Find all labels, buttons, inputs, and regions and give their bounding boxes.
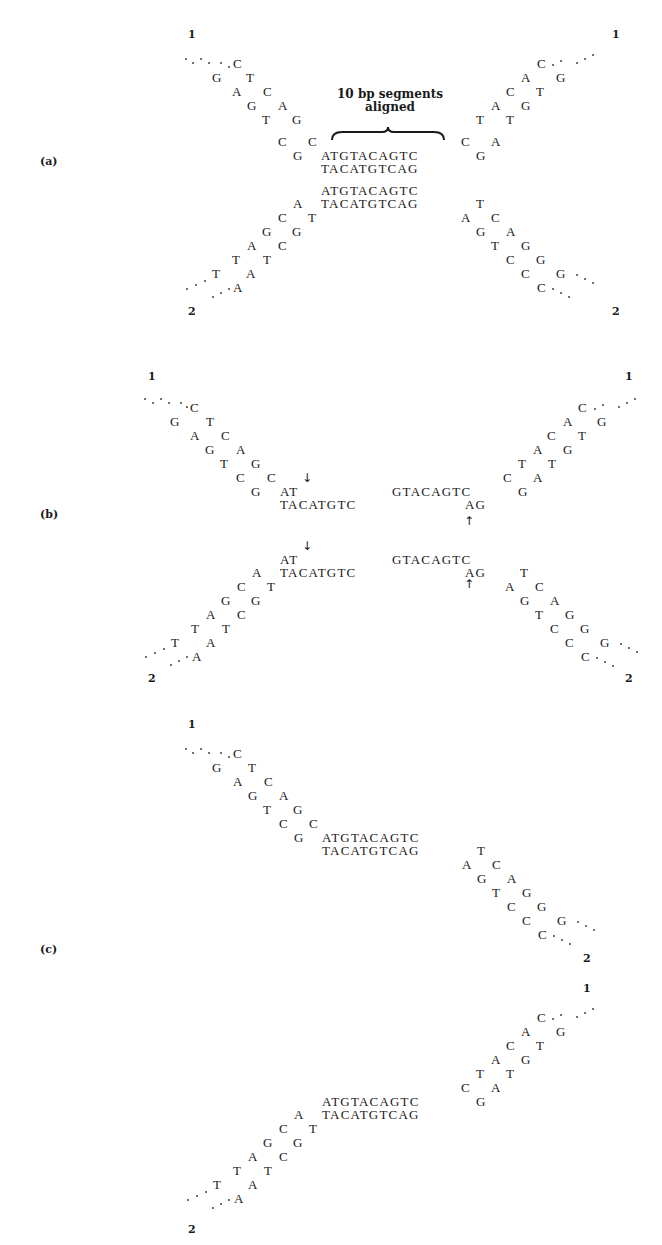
base: T [308,211,316,224]
base: A [462,858,472,871]
base: C [506,253,515,266]
base: C [264,775,273,788]
base: C [491,211,500,224]
base: A [521,71,531,84]
base: T [220,457,228,470]
base: T [476,1067,484,1080]
base: C [581,650,590,663]
base: C [279,817,288,830]
base: G [556,1025,566,1038]
base: A [293,197,303,210]
sequence-bottom: TACATGTCAG [321,162,419,175]
brace-icon [330,126,446,142]
base: G [521,239,531,252]
base: T [536,85,544,98]
base: G [556,71,566,84]
alignment-annotation: 10 bp segments aligned [305,88,475,114]
strand-end-label: 2 [612,305,620,318]
base: G [476,225,486,238]
base: G [293,149,303,162]
base: C [506,1039,515,1052]
base: C [521,267,530,280]
base: A [206,608,216,621]
base: G [600,636,610,649]
base: A [533,443,543,456]
base: G [580,622,590,635]
base: A [252,566,262,579]
base: T [491,239,499,252]
base: A [461,211,471,224]
base: C [279,1122,288,1135]
base: G [251,457,261,470]
annotation-line: aligned [305,101,475,114]
base: G [248,789,258,802]
base: C [506,85,515,98]
base: C [535,580,544,593]
base: C [503,471,512,484]
base: A [294,1108,304,1121]
base: A [491,1081,501,1094]
strand-end-label: 2 [188,1223,196,1236]
base: G [522,886,532,899]
base: C [237,580,246,593]
base: T [263,803,271,816]
base: A [563,415,573,428]
base: G [476,1095,486,1108]
base: A [233,775,243,788]
base: G [521,99,531,112]
panel-label-c: (c) [40,943,57,956]
base: T [191,622,199,635]
base: G [520,594,530,607]
sequence-bottom: TACATGTCAG [322,844,420,857]
base: G [292,113,302,126]
base: A [507,872,517,885]
base: G [263,1136,273,1149]
arrow-down-icon: ↓ [302,472,312,484]
strand-end-label: 2 [188,305,196,318]
base: T [262,113,270,126]
base: T [518,457,526,470]
strand-end-label: 1 [188,718,196,731]
base: A [248,1150,258,1163]
base: G [557,914,567,927]
base: T [492,886,500,899]
base: T [233,1164,241,1177]
base: T [206,415,214,428]
base: A [248,1178,258,1191]
base: C [537,57,546,70]
base: G [212,71,222,84]
base: T [309,1122,317,1135]
base: T [506,113,514,126]
base: G [537,900,547,913]
sequence-fragment: GTACAGTC [392,485,471,498]
base: C [279,1150,288,1163]
base: C [278,211,287,224]
base: G [262,225,272,238]
base: G [251,594,261,607]
base: A [506,225,516,238]
arrow-up-icon: ↑ [464,515,474,527]
base: A [491,99,501,112]
base: T [520,566,528,579]
base: T [213,1178,221,1191]
sequence-bottom: TACATGTCAG [321,197,419,210]
base: T [506,1067,514,1080]
base: C [308,135,317,148]
base: C [492,858,501,871]
base: C [565,636,574,649]
base: T [535,608,543,621]
base: C [278,135,287,148]
base: T [248,761,256,774]
base: C [190,401,199,414]
base: C [461,135,470,148]
base: A [192,650,202,663]
base: A [521,1025,531,1038]
base: A [206,636,216,649]
base: C [550,622,559,635]
base: C [237,608,246,621]
base: G [251,485,261,498]
sequence-fragment: TACATGTC [280,566,356,579]
base: G [292,225,302,238]
base: G [476,149,486,162]
base: C [578,401,587,414]
